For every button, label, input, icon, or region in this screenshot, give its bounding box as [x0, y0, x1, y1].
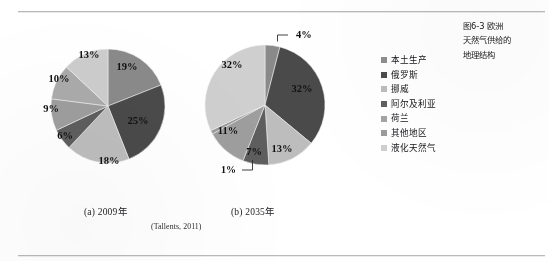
legend-label-5: 其他地区: [391, 129, 427, 138]
legend-swatch-icon-2: [381, 86, 387, 92]
source-citation: (Tallents, 2011): [151, 222, 202, 231]
pie-label-2009-2: 18%: [99, 155, 120, 166]
figure-title: 图6-3 欧洲 天然气供给的 地理结构: [463, 19, 543, 62]
pie-leader-line-4pct: [278, 35, 289, 42]
legend-label-6: 液化天然气: [391, 144, 436, 153]
legend-label-0: 本土生产: [391, 56, 427, 65]
legend-label-2: 挪威: [391, 85, 409, 94]
figure-title-line-2: 天然气供给的: [463, 33, 543, 47]
figure-page: 19% 25% 18% 6% 9% 10% 13%: [0, 0, 549, 261]
page-rule-bottom: [18, 255, 545, 256]
pie-chart-2035: 4% 32% 13% 7% 11% 1% 32%: [192, 14, 344, 198]
pie-label-2009-6: 13%: [79, 49, 100, 60]
legend-label-1: 俄罗斯: [391, 71, 418, 80]
legend-label-4: 荷兰: [391, 114, 409, 123]
pie-chart-2009: 19% 25% 18% 6% 9% 10% 13%: [37, 18, 179, 194]
legend-swatch-icon-5: [381, 130, 387, 136]
legend-item-lng: 液化天然气: [381, 141, 459, 156]
legend-item-norway: 挪威: [381, 82, 459, 97]
pie-label-2035-6: 32%: [222, 59, 243, 70]
page-rule-top: [18, 11, 545, 12]
legend-swatch-icon-6: [381, 145, 387, 151]
subcaption-2035: (b) 2035年: [231, 204, 275, 218]
figure-title-line-3: 地理结构: [463, 48, 543, 62]
pie-label-2009-0: 19%: [117, 61, 138, 72]
pie-label-2009-1: 25%: [128, 115, 149, 126]
subcaption-2009: (a) 2009年: [84, 204, 128, 218]
pie-label-2009-5: 10%: [49, 73, 70, 84]
legend-swatch-icon-1: [381, 72, 387, 78]
pie-label-2035-3: 7%: [246, 146, 262, 157]
pie-label-2035-2: 13%: [272, 143, 293, 154]
legend-swatch-icon-3: [381, 101, 387, 107]
pie-label-2035-0: 4%: [296, 29, 312, 40]
figure-title-line-1: 图6-3 欧洲: [463, 19, 543, 33]
pie-label-2035-5: 1%: [221, 164, 236, 175]
pie-label-2035-4: 11%: [218, 125, 238, 136]
legend-swatch-icon-4: [381, 116, 387, 122]
legend-item-algeria: 阿尔及利亚: [381, 97, 459, 112]
legend-swatch-icon-0: [381, 57, 387, 63]
pie-chart-2035-svg: 4% 32% 13% 7% 11% 1% 32%: [192, 14, 344, 198]
pie-label-2035-1: 32%: [292, 83, 313, 94]
legend-item-netherlands: 荷兰: [381, 111, 459, 126]
pie-chart-2009-svg: 19% 25% 18% 6% 9% 10% 13%: [37, 18, 179, 194]
pie-slices-2009: [51, 49, 165, 163]
pie-label-2009-3: 6%: [57, 130, 73, 141]
legend-item-domestic-production: 本土生产: [381, 53, 459, 68]
legend-item-russia: 俄罗斯: [381, 68, 459, 83]
legend-label-3: 阿尔及利亚: [391, 100, 436, 109]
legend-item-other-regions: 其他地区: [381, 126, 459, 141]
legend: 本土生产 俄罗斯 挪威 阿尔及利亚 荷兰 其他地区 液化天然气: [381, 53, 459, 155]
pie-label-2009-4: 9%: [43, 103, 59, 114]
